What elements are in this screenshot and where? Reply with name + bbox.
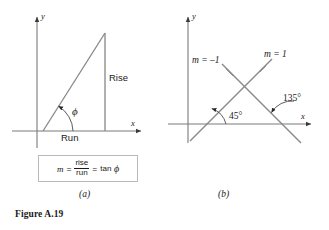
panel-a-phi-arc	[59, 106, 74, 131]
panel-b-leader-pos	[260, 66, 266, 72]
figure-a19: y x Rise Run ϕ m = rise run = tan ϕ (a) …	[0, 0, 329, 230]
formula-fraction: rise run	[74, 159, 89, 178]
formula-tan: tan	[100, 164, 111, 173]
panel-b-y-axis-label: y	[192, 12, 196, 21]
panel-b-angle-45-label: 45°	[229, 112, 242, 122]
panel-a-y-axis-label: y	[41, 12, 45, 21]
formula-equals-2: =	[92, 164, 98, 174]
panel-b-x-axis-label: x	[301, 112, 305, 121]
panel-b-line-slope-positive	[190, 59, 272, 141]
panel-a-run-label: Run	[61, 133, 78, 143]
panel-b-angle-135-label: 135°	[283, 94, 301, 104]
formula-m: m	[57, 164, 64, 174]
panel-b-graphic	[168, 17, 311, 143]
formula-numerator: rise	[74, 159, 89, 168]
panel-a-rise-label: Rise	[109, 73, 128, 83]
formula-equals-1: =	[66, 164, 72, 174]
panel-a-x-axis-label: x	[131, 119, 135, 128]
slope-formula-box: m = rise run = tan ϕ	[38, 155, 138, 182]
panel-a-phi-label: ϕ	[72, 106, 78, 117]
figure-vector-graphics	[0, 0, 329, 230]
panel-b-slope-positive-label: m = 1	[264, 50, 287, 60]
figure-caption: Figure A.19	[15, 210, 63, 220]
formula-phi: ϕ	[114, 163, 119, 174]
panel-b-line-slope-negative	[222, 64, 301, 143]
panel-b-letter: (b)	[218, 190, 229, 200]
panel-b-leader-neg	[226, 69, 233, 76]
panel-a-letter: (a)	[79, 190, 90, 200]
formula-denominator: run	[75, 169, 89, 178]
slope-formula-content: m = rise run = tan ϕ	[39, 156, 137, 181]
panel-b-slope-negative-label: m = –1	[192, 56, 220, 66]
